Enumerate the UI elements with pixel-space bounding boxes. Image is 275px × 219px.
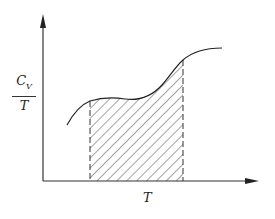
hatched-area [88,50,185,182]
y-axis-arrow-icon [40,14,46,28]
x-axis-arrow-icon [245,178,259,184]
x-axis-label: T [143,190,152,205]
fraction-bar [12,96,36,97]
y-label-numerator: C [16,73,26,88]
diagram-canvas: CV T T [0,0,275,219]
y-label-subscript: V [26,82,32,91]
y-axis-label: CV T [12,74,36,113]
y-label-denominator: T [12,99,36,113]
plot-graphics [0,0,275,219]
